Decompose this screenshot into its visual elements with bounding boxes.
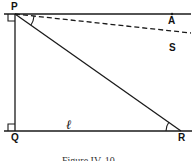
geometry-figure: P A S Q R ℓ Figure IV. 10 (0, 0, 193, 161)
label-line-l: ℓ (66, 117, 72, 132)
figure-caption: Figure IV. 10 (62, 155, 115, 161)
segment-pr (15, 14, 181, 131)
label-s: S (169, 42, 176, 53)
label-q: Q (11, 132, 19, 143)
right-angle-mark-p (8, 14, 15, 21)
right-angle-mark-q (8, 124, 15, 131)
label-p: P (11, 1, 18, 12)
label-r: R (178, 132, 186, 143)
label-a: A (168, 15, 175, 26)
angle-arc-r (166, 122, 169, 131)
angle-arc-p (31, 16, 34, 25)
dashed-ray-ps (15, 14, 191, 33)
